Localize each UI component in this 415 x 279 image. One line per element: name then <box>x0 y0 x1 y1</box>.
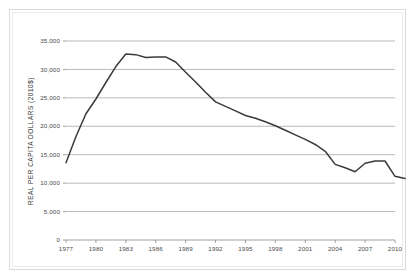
y-axis-tick-labels: 05,00010,00015,00020,00025,00030,00035,0… <box>40 37 60 243</box>
x-tick-label: 1995 <box>238 245 253 252</box>
x-tick-label: 2004 <box>328 245 343 252</box>
series-line <box>66 54 405 179</box>
x-tick-label: 1983 <box>119 245 134 252</box>
y-tick-label: 35,000 <box>40 37 60 44</box>
line-chart: 05,00010,00015,00020,00025,00030,00035,0… <box>0 0 415 279</box>
x-tick-label: 1989 <box>178 245 193 252</box>
x-tick-label: 1980 <box>89 245 104 252</box>
x-tick-label: 1998 <box>268 245 283 252</box>
y-tick-label: 15,000 <box>40 151 60 158</box>
y-tick-label: 0 <box>56 236 60 243</box>
y-tick-label: 5,000 <box>44 208 61 215</box>
y-tick-label: 20,000 <box>40 122 60 129</box>
x-tick-label: 1986 <box>149 245 164 252</box>
x-tick-label: 1977 <box>59 245 74 252</box>
x-tick-label: 2001 <box>298 245 313 252</box>
y-tick-label: 30,000 <box>40 66 60 73</box>
chart-figure: 05,00010,00015,00020,00025,00030,00035,0… <box>0 0 415 279</box>
y-tick-label: 25,000 <box>40 94 60 101</box>
x-tick-label: 2007 <box>358 245 373 252</box>
data-series <box>66 54 405 179</box>
x-tick-label: 1992 <box>208 245 223 252</box>
x-tick-label: 2010 <box>388 245 403 252</box>
y-tick-label: 10,000 <box>40 179 60 186</box>
x-axis-tick-labels: 1977198019831986198919921995199820012004… <box>59 245 403 252</box>
y-axis-title: REAL PER CAPITA DOLLARS (2010$) <box>27 77 35 205</box>
